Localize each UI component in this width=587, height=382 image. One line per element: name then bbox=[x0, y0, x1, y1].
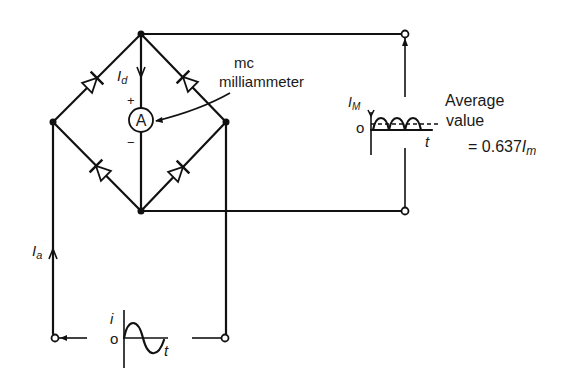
ammeter-icon: A bbox=[129, 108, 153, 132]
ac-current-label: Ia bbox=[32, 242, 42, 261]
input-waveform: i o t bbox=[110, 310, 169, 368]
average-label-line2: value bbox=[446, 112, 484, 129]
terminal-output-top bbox=[402, 31, 409, 38]
output-wires bbox=[141, 34, 408, 211]
output-waveform: IM o t bbox=[348, 94, 440, 155]
terminal-input-left bbox=[52, 335, 59, 342]
output-x-label: t bbox=[425, 133, 430, 150]
meter-label-line2: milliammeter bbox=[219, 73, 304, 90]
input-origin-label: o bbox=[110, 330, 118, 347]
output-y-label: IM bbox=[348, 94, 361, 112]
output-arrow-icon bbox=[402, 38, 408, 46]
terminal-output-bottom bbox=[402, 208, 409, 215]
average-formula: = 0.637Im bbox=[468, 138, 536, 158]
meter-plus-label: + bbox=[127, 93, 135, 108]
ammeter-symbol: A bbox=[136, 112, 147, 129]
meter-pointer-line bbox=[156, 93, 230, 121]
meter-minus-label: − bbox=[127, 135, 135, 150]
dc-current-label: Id bbox=[117, 67, 128, 86]
input-arrow-icon bbox=[60, 335, 67, 341]
meter-label-line1: mc bbox=[234, 54, 254, 71]
terminal-input-right bbox=[222, 335, 229, 342]
output-origin-label: o bbox=[356, 119, 364, 136]
bridge-rectifier-diagram: A + − Id mc milliammeter Ia i o t IM o t… bbox=[0, 0, 587, 382]
input-x-label: t bbox=[164, 342, 169, 359]
average-label-line1: Average bbox=[445, 92, 504, 109]
input-y-label: i bbox=[110, 310, 114, 327]
meter-pointer-arrow-icon bbox=[155, 117, 163, 123]
input-wires bbox=[53, 122, 226, 341]
